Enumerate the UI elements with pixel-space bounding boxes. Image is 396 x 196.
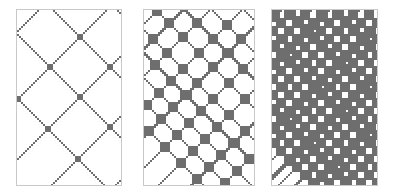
panel-dense-canvas	[272, 10, 378, 186]
figure-root	[0, 0, 396, 196]
panel-sparse	[16, 9, 122, 186]
panel-medium	[143, 9, 255, 186]
panel-sparse-canvas	[17, 10, 121, 186]
panel-medium-canvas	[144, 10, 254, 186]
panel-dense	[271, 9, 378, 186]
